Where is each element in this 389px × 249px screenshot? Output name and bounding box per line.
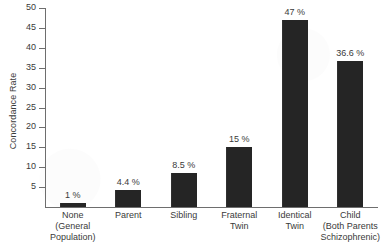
- bar-rect: [226, 147, 252, 207]
- bar-rect: [337, 61, 363, 207]
- y-axis-tick-40: [39, 48, 45, 49]
- x-axis-label-line: (Both Parents: [306, 221, 389, 232]
- y-axis-tick-label-25: 25: [16, 103, 36, 112]
- x-axis-label-line: Child: [306, 210, 389, 221]
- y-axis-tick-25: [39, 108, 45, 109]
- x-axis-line: [45, 207, 378, 208]
- y-axis-tick-35: [39, 68, 45, 69]
- bar-value-label: 8.5 %: [172, 161, 195, 170]
- y-axis-tick-label-15: 15: [16, 142, 36, 151]
- x-axis-label-line: Schizophrenic): [306, 232, 389, 243]
- y-axis-tick-15: [39, 147, 45, 148]
- y-axis-tick-label-40: 40: [16, 43, 36, 52]
- y-axis-tick-10: [39, 167, 45, 168]
- y-axis-tick-label-30: 30: [16, 83, 36, 92]
- x-axis-label: Child(Both ParentsSchizophrenic): [306, 210, 389, 243]
- bar-rect: [60, 203, 86, 207]
- y-axis-tick-label-5: 5: [16, 182, 36, 191]
- bar-group: 8.5 %: [158, 8, 210, 207]
- bar-value-label: 4.4 %: [117, 178, 140, 187]
- bar-value-label: 1 %: [65, 191, 81, 200]
- y-axis-tick-label-20: 20: [16, 122, 36, 131]
- bar-rect: [282, 20, 308, 207]
- bar-rect: [171, 173, 197, 207]
- bar-group: 4.4 %: [102, 8, 154, 207]
- y-axis-tick-45: [39, 28, 45, 29]
- bar-chart: Concordance Rate 5101520253035404550 1 %…: [0, 0, 389, 249]
- bar-group: 36.6 %: [324, 8, 376, 207]
- y-axis-tick-label-35: 35: [16, 63, 36, 72]
- bar-value-label: 47 %: [284, 8, 305, 17]
- bar-value-label: 15 %: [229, 135, 250, 144]
- x-axis-label-line: Population): [29, 232, 117, 243]
- x-axis-label-line: (General: [29, 221, 117, 232]
- y-axis-tick-label-45: 45: [16, 23, 36, 32]
- y-axis-tick-5: [39, 187, 45, 188]
- bar-group: 1 %: [47, 8, 99, 207]
- y-axis-tick-30: [39, 88, 45, 89]
- y-axis-tick-50: [39, 8, 45, 9]
- y-axis-tick-20: [39, 127, 45, 128]
- bar-group: 15 %: [213, 8, 265, 207]
- bar-group: 47 %: [269, 8, 321, 207]
- bar-rect: [115, 190, 141, 208]
- y-axis-tick-label-10: 10: [16, 162, 36, 171]
- y-axis-tick-label-50: 50: [16, 3, 36, 12]
- bar-value-label: 36.6 %: [336, 49, 364, 58]
